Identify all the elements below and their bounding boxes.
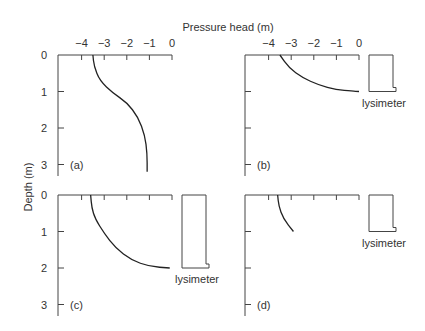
pressure-head-curve — [278, 195, 294, 232]
panel-label: (d) — [257, 299, 270, 311]
x-tick-label: −3 — [285, 37, 298, 49]
y-tick-label: 0 — [41, 189, 47, 201]
x-tick-label: −3 — [98, 37, 111, 49]
panel-a: −4−3−2−100123(a) — [41, 37, 175, 176]
lysimeter-icon — [369, 55, 396, 92]
y-axis-title: Depth (m) — [22, 163, 34, 212]
pressure-head-curve — [280, 55, 359, 92]
y-tick-label: 3 — [41, 159, 47, 171]
panel-c: 0123(c)lysimeter — [41, 189, 219, 316]
pressure-head-curve — [93, 55, 147, 172]
panel-d: (d)lysimeter — [245, 195, 406, 316]
x-tick-label: −1 — [330, 37, 343, 49]
lysimeter-label: lysimeter — [175, 273, 219, 285]
lysimeter-label: lysimeter — [362, 237, 406, 249]
y-tick-label: 1 — [41, 86, 47, 98]
panel-label: (c) — [70, 299, 83, 311]
y-tick-label: 3 — [41, 299, 47, 311]
lysimeter-icon — [369, 195, 396, 232]
x-axis-title: Pressure head (m) — [182, 21, 273, 33]
y-tick-label: 1 — [41, 226, 47, 238]
y-tick-label: 2 — [41, 262, 47, 274]
y-tick-label: 0 — [41, 49, 47, 61]
panel-label: (b) — [257, 159, 270, 171]
panel-b: −4−3−2−10(b)lysimeter — [245, 37, 406, 176]
x-tick-label: −1 — [143, 37, 156, 49]
y-tick-label: 2 — [41, 122, 47, 134]
x-tick-label: −4 — [262, 37, 275, 49]
pressure-head-curve — [91, 195, 170, 268]
x-tick-label: −2 — [308, 37, 321, 49]
x-tick-label: 0 — [356, 37, 362, 49]
x-tick-label: −2 — [121, 37, 134, 49]
lysimeter-icon — [182, 195, 209, 268]
panel-label: (a) — [70, 159, 83, 171]
figure-canvas: Pressure head (m) Depth (m) −4−3−2−10012… — [0, 0, 425, 331]
lysimeter-label: lysimeter — [362, 97, 406, 109]
x-tick-label: 0 — [169, 37, 175, 49]
x-tick-label: −4 — [75, 37, 88, 49]
